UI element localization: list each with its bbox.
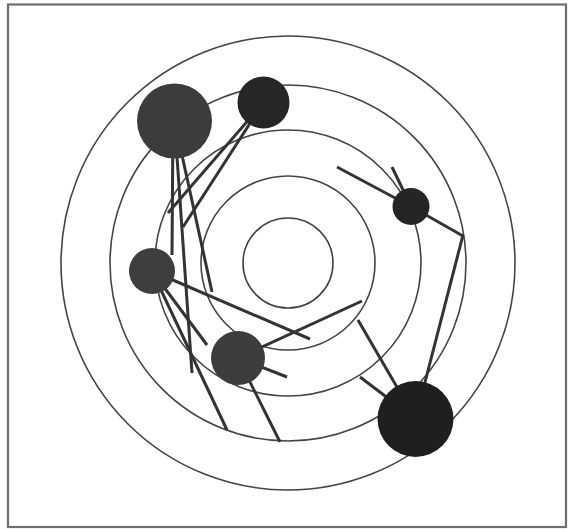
concentric-network-diagram [0,0,569,529]
nodes-layer [129,77,454,458]
node-right [393,188,430,225]
ring-1 [243,218,333,308]
diagram-canvas [0,0,569,529]
ring-2 [201,176,375,350]
node-bottom-middle [211,331,265,385]
node-left [129,248,175,294]
node-top-left-large [137,84,212,159]
ring-3 [155,130,421,396]
node-bottom-right-large [378,381,454,457]
frame-layer [8,5,566,528]
node-top [238,77,290,129]
frame-border [8,5,566,528]
